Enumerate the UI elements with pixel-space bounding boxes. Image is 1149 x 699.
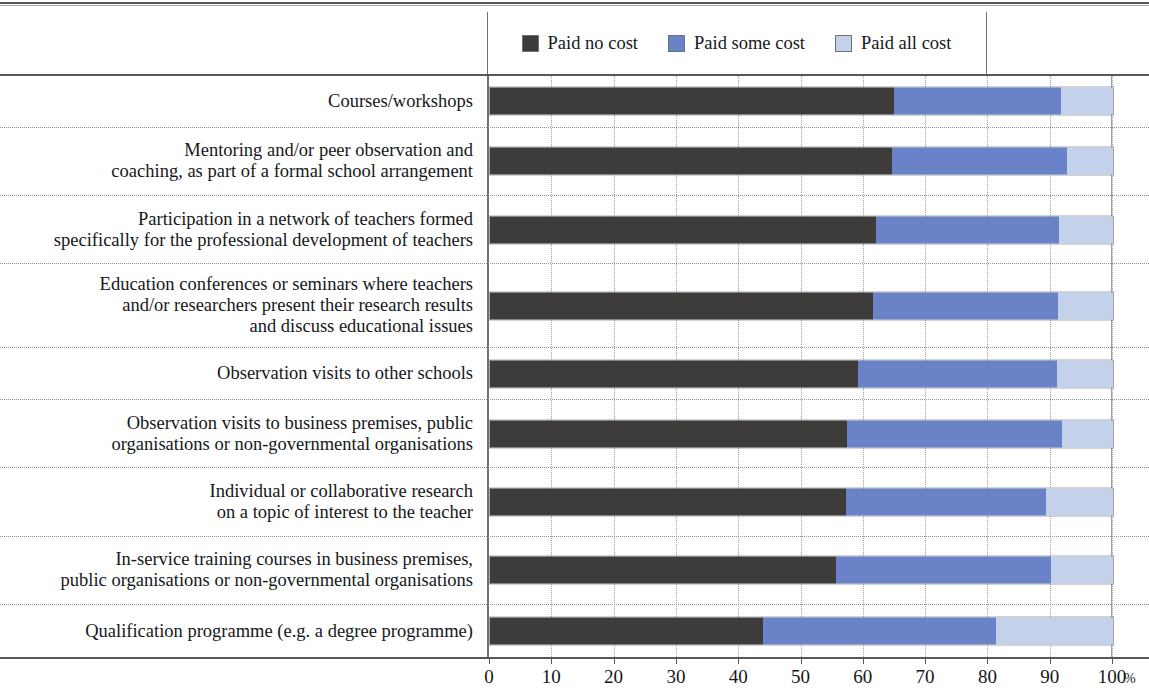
bar-segment[interactable] (490, 88, 894, 115)
bar-row-label: In-service training courses in business … (0, 549, 487, 591)
x-axis-tick-label: 20 (604, 666, 623, 688)
legend-items: Paid no costPaid some costPaid all cost (487, 12, 986, 74)
bar-row: Education conferences or seminars where … (0, 264, 1149, 348)
bar-row-label: Observation visits to other schools (0, 363, 487, 384)
x-axis-tick (1112, 657, 1113, 664)
bar-segment[interactable] (490, 292, 873, 319)
bar-track (489, 128, 1149, 195)
x-axis-tick-label: 50 (791, 666, 810, 688)
stacked-bar[interactable] (489, 419, 1114, 448)
bar-track (489, 468, 1149, 535)
bar-segment[interactable] (1062, 420, 1113, 447)
stacked-bar[interactable] (489, 359, 1114, 388)
bar-row-label-line: and discuss educational issues (0, 316, 473, 337)
stacked-bar[interactable] (489, 215, 1114, 244)
bar-segment[interactable] (490, 489, 846, 516)
bar-row: Individual or collaborative researchon a… (0, 468, 1149, 536)
stacked-bar[interactable] (489, 87, 1114, 116)
x-axis-tick (925, 657, 926, 664)
bar-track (489, 400, 1149, 467)
bar-segment[interactable] (1051, 557, 1113, 584)
bar-row: Mentoring and/or peer observation andcoa… (0, 128, 1149, 196)
x-axis-tick-label: 10 (542, 666, 561, 688)
bar-row-label-line: In-service training courses in business … (0, 549, 473, 570)
bar-segment[interactable] (836, 557, 1051, 584)
bar-row-label-line: Individual or collaborative research (0, 481, 473, 502)
x-axis-tick-label: 70 (916, 666, 935, 688)
bar-row-label-line: public organisations or non-governmental… (0, 570, 473, 591)
bar-segment[interactable] (892, 148, 1066, 175)
bar-track (489, 537, 1149, 604)
bar-segment[interactable] (490, 216, 876, 243)
chart-sheet: Paid no costPaid some costPaid all cost … (0, 0, 1149, 699)
bar-row-label: Participation in a network of teachers f… (0, 209, 487, 251)
bar-segment[interactable] (1061, 88, 1113, 115)
x-axis-tick (801, 657, 802, 664)
legend-item: Paid no cost (522, 34, 638, 53)
bar-segment[interactable] (1046, 489, 1113, 516)
bar-segment[interactable] (490, 148, 892, 175)
legend-swatch-paid-all-cost (835, 35, 852, 52)
legend-item-label: Paid some cost (694, 34, 805, 53)
bar-row-label-line: coaching, as part of a formal school arr… (0, 161, 473, 182)
bar-row: Observation visits to business premises,… (0, 400, 1149, 468)
stacked-bar[interactable] (489, 147, 1114, 176)
bar-segment[interactable] (1058, 292, 1113, 319)
bar-segment[interactable] (490, 618, 763, 645)
bar-segment[interactable] (996, 618, 1113, 645)
bar-row-label: Mentoring and/or peer observation andcoa… (0, 140, 487, 182)
bar-row-label: Individual or collaborative researchon a… (0, 481, 487, 523)
legend-item: Paid all cost (835, 34, 951, 53)
legend-item-label: Paid all cost (861, 34, 951, 53)
x-axis-tick-label: 80 (978, 666, 997, 688)
bar-row-label-line: and/or researchers present their researc… (0, 295, 473, 316)
bar-segment[interactable] (873, 292, 1058, 319)
legend-divider-right (986, 12, 987, 74)
bar-track (489, 605, 1149, 657)
bar-row-label-line: Qualification programme (e.g. a degree p… (0, 621, 473, 642)
legend-item-label: Paid no cost (548, 34, 638, 53)
bar-track (489, 196, 1149, 263)
bar-segment[interactable] (846, 489, 1047, 516)
stacked-bar[interactable] (489, 556, 1114, 585)
bar-segment[interactable] (858, 360, 1057, 387)
bar-row: Observation visits to other schools (0, 348, 1149, 400)
bar-row-label-line: organisations or non-governmental organi… (0, 434, 473, 455)
bar-row-label-line: Education conferences or seminars where … (0, 274, 473, 295)
x-axis-tick-label: 60 (853, 666, 872, 688)
bar-row: Courses/workshops (0, 76, 1149, 128)
bar-segment[interactable] (876, 216, 1059, 243)
x-axis-tick (738, 657, 739, 664)
stacked-bar[interactable] (489, 488, 1114, 517)
page-top-rule (0, 2, 1149, 4)
bar-segment[interactable] (847, 420, 1062, 447)
bar-track (489, 264, 1149, 347)
bar-row-label-line: Mentoring and/or peer observation and (0, 140, 473, 161)
x-axis-tick (614, 657, 615, 664)
bar-segment[interactable] (490, 360, 858, 387)
bar-row-label-line: Participation in a network of teachers f… (0, 209, 473, 230)
bar-row-label-line: Courses/workshops (0, 91, 473, 112)
bar-segment[interactable] (1059, 216, 1113, 243)
x-axis-tick-label: 30 (666, 666, 685, 688)
x-axis-tick (863, 657, 864, 664)
bar-row-label-line: on a topic of interest to the teacher (0, 502, 473, 523)
bar-row-label: Education conferences or seminars where … (0, 274, 487, 337)
bar-track (489, 348, 1149, 399)
bar-segment[interactable] (1057, 360, 1113, 387)
bar-row-label-line: Observation visits to other schools (0, 363, 473, 384)
bar-segment[interactable] (1067, 148, 1113, 175)
x-axis: % 0102030405060708090100 (0, 657, 1149, 699)
bar-segment[interactable] (763, 618, 996, 645)
bar-segment[interactable] (894, 88, 1061, 115)
bar-track (489, 76, 1149, 127)
x-axis-tick (551, 657, 552, 664)
bar-rows: Courses/workshopsMentoring and/or peer o… (0, 76, 1149, 657)
bar-segment[interactable] (490, 420, 847, 447)
x-axis-tick-label: 100 (1098, 666, 1127, 688)
bar-row-label: Observation visits to business premises,… (0, 413, 487, 455)
x-axis-tick-label: 90 (1040, 666, 1059, 688)
stacked-bar[interactable] (489, 617, 1114, 646)
bar-segment[interactable] (490, 557, 836, 584)
stacked-bar[interactable] (489, 291, 1114, 320)
